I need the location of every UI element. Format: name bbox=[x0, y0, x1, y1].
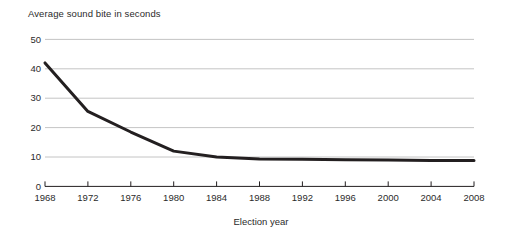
x-tick-label-1984: 1984 bbox=[197, 193, 237, 203]
x-tick-label-1968: 1968 bbox=[25, 193, 65, 203]
data-series-line bbox=[45, 63, 474, 161]
x-tick-label-1976: 1976 bbox=[111, 193, 151, 203]
y-tick-label-50: 50 bbox=[15, 35, 41, 45]
x-tick-label-2004: 2004 bbox=[411, 193, 451, 203]
y-tick-label-0: 0 bbox=[15, 182, 41, 192]
y-tick-label-40: 40 bbox=[15, 64, 41, 74]
y-tick-label-10: 10 bbox=[15, 152, 41, 162]
y-tick-label-20: 20 bbox=[15, 123, 41, 133]
x-axis-title: Election year bbox=[0, 216, 512, 227]
x-tick-label-1980: 1980 bbox=[154, 193, 194, 203]
x-axis bbox=[45, 181, 474, 186]
x-tick-label-2008: 2008 bbox=[454, 193, 494, 203]
x-tick-label-1972: 1972 bbox=[68, 193, 108, 203]
chart-container: Average sound bite in seconds 50 40 30 bbox=[0, 0, 512, 235]
x-tick-label-1996: 1996 bbox=[325, 193, 365, 203]
x-tick-label-1992: 1992 bbox=[282, 193, 322, 203]
x-axis-title-text: Election year bbox=[234, 216, 289, 227]
y-tick-label-30: 30 bbox=[15, 93, 41, 103]
x-tick-label-1988: 1988 bbox=[240, 193, 280, 203]
gridlines bbox=[45, 39, 474, 157]
x-tick-label-2000: 2000 bbox=[368, 193, 408, 203]
